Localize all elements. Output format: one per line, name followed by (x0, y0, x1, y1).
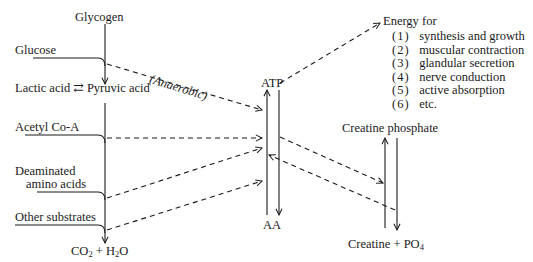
subscript: 4 (420, 242, 424, 252)
item-text: active absorption (419, 83, 505, 97)
item-number: (3) (392, 57, 416, 71)
other-substrates-label: Other substrates (15, 210, 96, 224)
energy-uses-list: (1) synthesis and growth (2) muscular co… (392, 30, 525, 112)
energy-use-item: (4) nerve conduction (392, 71, 525, 85)
co-text: CO (71, 244, 88, 258)
glucose-branch-line (33, 58, 105, 66)
acetyl-coa-branch-line (25, 135, 105, 143)
creatine-po4-label: Creatine + PO4 (348, 237, 424, 254)
item-number: (5) (392, 84, 416, 98)
aa-label: AA (263, 218, 281, 232)
other-substrates-dashed-arrow (107, 181, 262, 230)
creatine-phosphate-label: Creatine phosphate (342, 121, 438, 135)
item-text: muscular contraction (419, 43, 524, 57)
plus-h-text: + H (93, 244, 115, 258)
item-text: nerve conduction (419, 70, 505, 84)
energy-use-item: (1) synthesis and growth (392, 30, 525, 44)
glycogen-label: Glycogen (75, 10, 124, 24)
energy-use-item: (5) active absorption (392, 84, 525, 98)
item-text: etc. (419, 97, 437, 111)
pyruvic-acid-text: Pyruvic acid (87, 81, 150, 95)
amino-acids-label: amino acids (26, 177, 86, 191)
equilibrium-arrow-icon: ⇄ (73, 81, 83, 95)
item-number: (1) (392, 30, 416, 44)
item-text: synthesis and growth (419, 29, 525, 43)
item-number: (4) (392, 71, 416, 85)
creatine-text: Creatine + PO (348, 237, 420, 251)
lactic-acid-text: Lactic acid (15, 81, 70, 95)
item-text: glandular secretion (419, 56, 514, 70)
glucose-label: Glucose (15, 43, 56, 57)
lactic-acid-label: Lactic acid ⇄ Pyruvic acid (15, 81, 150, 95)
energy-use-item: (6) etc. (392, 98, 525, 112)
acetyl-coa-label: Acetyl Co-A (15, 120, 79, 134)
deaminated-label: Deaminated (15, 164, 75, 178)
energy-use-item: (3) glandular secretion (392, 57, 525, 71)
co2-h2o-label: CO2 + H2O (71, 244, 128, 261)
atp-label: ATP (261, 76, 283, 90)
atp-to-energy-dashed-arrow (280, 23, 380, 83)
other-substrates-branch-line (15, 225, 105, 233)
amino-acids-branch-line (37, 192, 105, 200)
energy-metabolism-diagram: Glycogen Glucose Lactic acid ⇄ Pyruvic a… (0, 0, 533, 262)
item-number: (2) (392, 44, 416, 58)
amino-acids-dashed-arrow (107, 148, 262, 198)
atp-to-creatine-phosphate-dashed-arrow (280, 137, 383, 183)
energy-for-label: Energy for (383, 14, 437, 28)
creatine-phosphate-to-atp-dashed-arrow (269, 155, 395, 210)
energy-use-item: (2) muscular contraction (392, 44, 525, 58)
item-number: (6) (392, 98, 416, 112)
o-text: O (119, 244, 128, 258)
